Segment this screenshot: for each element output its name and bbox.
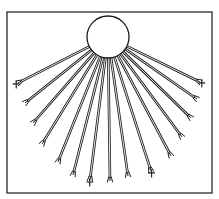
forked-tip-icon [107,177,112,182]
tube-group [13,45,205,186]
cross-marker-icon [13,81,19,88]
central-hub-circle [87,16,129,58]
tube [30,51,95,125]
cross-marker-icon [199,80,205,87]
radiating-tubes-diagram [0,0,219,199]
tube [117,54,174,158]
tube [87,56,106,186]
tube [107,56,112,182]
tube [119,52,184,139]
